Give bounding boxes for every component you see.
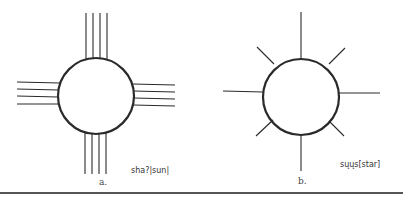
star-rays [223, 12, 380, 171]
star-circle [263, 59, 339, 135]
figure-a-sublabel: a. [99, 177, 107, 187]
star-symbol [223, 12, 380, 171]
diagram-canvas [0, 0, 403, 202]
figure-a-caption: sha?|sun| [131, 166, 169, 175]
sun-top-rays [86, 13, 107, 59]
figure-b-caption: sųųs[star] [340, 160, 380, 169]
sun-symbol [17, 13, 175, 174]
sun-circle [58, 58, 134, 134]
sun-bottom-rays [85, 132, 106, 174]
bottom-divider [0, 192, 403, 194]
sun-left-rays [17, 82, 60, 104]
sun-right-rays [132, 84, 175, 106]
figure-b-sublabel: b. [298, 176, 307, 186]
